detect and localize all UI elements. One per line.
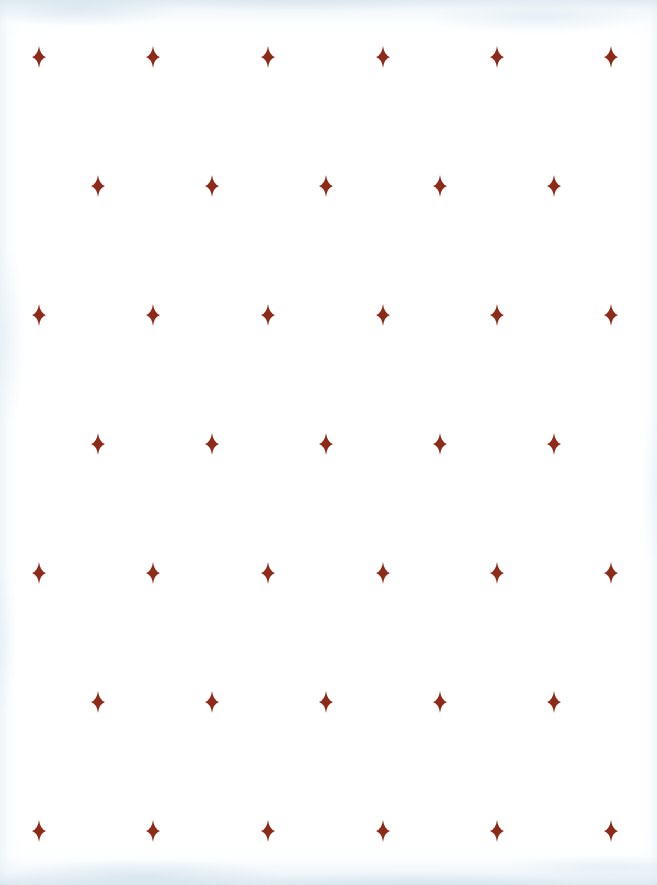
star-shape [91, 691, 105, 713]
star-shape [433, 175, 447, 197]
star-shape [146, 820, 160, 842]
star-shape [319, 175, 333, 197]
four-pointed-star-icon [205, 691, 219, 713]
four-pointed-star-icon [146, 820, 160, 842]
star-shape [261, 562, 275, 584]
four-pointed-star-icon [205, 175, 219, 197]
star-shape [604, 46, 618, 68]
star-shape [319, 433, 333, 455]
four-pointed-star-icon [91, 691, 105, 713]
four-pointed-star-icon [547, 175, 561, 197]
four-pointed-star-icon [146, 46, 160, 68]
star-shape [205, 691, 219, 713]
four-pointed-star-icon [547, 433, 561, 455]
four-pointed-star-icon [604, 562, 618, 584]
star-shape [433, 691, 447, 713]
four-pointed-star-icon [433, 691, 447, 713]
star-shape [604, 562, 618, 584]
four-pointed-star-icon [32, 820, 46, 842]
star-shape [490, 820, 504, 842]
star-shape [91, 433, 105, 455]
four-pointed-star-icon [146, 304, 160, 326]
four-pointed-star-icon [376, 46, 390, 68]
star-shape [261, 46, 275, 68]
star-shape [205, 175, 219, 197]
star-shape [490, 562, 504, 584]
four-pointed-star-icon [146, 562, 160, 584]
four-pointed-star-icon [604, 46, 618, 68]
four-pointed-star-icon [490, 304, 504, 326]
star-shape [376, 820, 390, 842]
star-shape [146, 304, 160, 326]
four-pointed-star-icon [376, 820, 390, 842]
four-pointed-star-icon [205, 433, 219, 455]
star-shape [376, 46, 390, 68]
four-pointed-star-icon [32, 304, 46, 326]
star-shape [376, 562, 390, 584]
star-shape [433, 433, 447, 455]
four-pointed-star-icon [261, 820, 275, 842]
star-shape [32, 562, 46, 584]
four-pointed-star-icon [91, 433, 105, 455]
star-shape [32, 46, 46, 68]
four-pointed-star-icon [32, 46, 46, 68]
four-pointed-star-icon [32, 562, 46, 584]
four-pointed-star-icon [261, 562, 275, 584]
star-shape [319, 691, 333, 713]
four-pointed-star-icon [604, 304, 618, 326]
star-shape [547, 433, 561, 455]
four-pointed-star-icon [261, 304, 275, 326]
star-shape [32, 304, 46, 326]
star-shape [146, 562, 160, 584]
four-pointed-star-icon [91, 175, 105, 197]
star-pattern-canvas [0, 0, 657, 885]
star-shape [146, 46, 160, 68]
star-shape [604, 304, 618, 326]
four-pointed-star-icon [319, 433, 333, 455]
star-shape [604, 820, 618, 842]
four-pointed-star-icon [490, 562, 504, 584]
four-pointed-star-icon [433, 433, 447, 455]
star-shape [205, 433, 219, 455]
four-pointed-star-icon [433, 175, 447, 197]
four-pointed-star-icon [376, 304, 390, 326]
star-shape [261, 820, 275, 842]
star-shape [261, 304, 275, 326]
four-pointed-star-icon [376, 562, 390, 584]
four-pointed-star-icon [604, 820, 618, 842]
star-shape [490, 46, 504, 68]
star-shape [91, 175, 105, 197]
star-shape [32, 820, 46, 842]
star-shape [547, 691, 561, 713]
four-pointed-star-icon [319, 691, 333, 713]
four-pointed-star-icon [490, 46, 504, 68]
four-pointed-star-icon [547, 691, 561, 713]
four-pointed-star-icon [490, 820, 504, 842]
star-shape [490, 304, 504, 326]
star-shape [376, 304, 390, 326]
four-pointed-star-icon [261, 46, 275, 68]
four-pointed-star-icon [319, 175, 333, 197]
star-shape [547, 175, 561, 197]
